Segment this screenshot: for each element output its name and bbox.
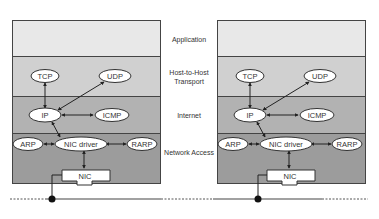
svg-text:ARP: ARP <box>20 140 35 149</box>
arrow-udp-ip <box>263 82 309 110</box>
svg-text:ICMP: ICMP <box>103 111 122 120</box>
bus-tap-dot <box>49 196 56 203</box>
node-icmp: ICMP <box>300 109 334 122</box>
svg-text:IP: IP <box>41 111 48 120</box>
node-nic-driver: NIC driver <box>55 137 107 151</box>
node-tcp: TCP <box>31 70 59 83</box>
node-ip: IP <box>234 108 266 122</box>
bus-tap-dot <box>255 196 262 203</box>
svg-text:NIC: NIC <box>79 172 93 181</box>
arrow-udp-ip <box>58 82 104 110</box>
nic-cable <box>52 175 62 199</box>
node-icmp: ICMP <box>95 109 129 122</box>
diagram-overlay: TCP UDP IP ICMP ARP NIC driver RARP NIC <box>0 0 379 219</box>
svg-text:RARP: RARP <box>337 140 358 149</box>
node-rarp: RARP <box>332 138 362 151</box>
svg-text:IP: IP <box>246 111 253 120</box>
svg-text:RARP: RARP <box>132 140 153 149</box>
node-nic: NIC <box>267 170 315 185</box>
node-udp: UDP <box>99 70 131 83</box>
node-udp: UDP <box>304 70 336 83</box>
svg-text:TCP: TCP <box>38 72 53 81</box>
arrow-ip-nicdriver <box>52 122 60 137</box>
svg-text:NIC driver: NIC driver <box>64 140 98 149</box>
left-stack-graph: TCP UDP IP ICMP ARP NIC driver RARP NIC <box>13 70 157 203</box>
svg-text:NIC driver: NIC driver <box>269 140 303 149</box>
svg-text:ARP: ARP <box>225 140 240 149</box>
node-arp: ARP <box>218 138 248 151</box>
node-nic-driver: NIC driver <box>260 137 312 151</box>
svg-text:TCP: TCP <box>243 72 258 81</box>
node-ip: IP <box>29 108 61 122</box>
svg-text:UDP: UDP <box>312 72 328 81</box>
node-arp: ARP <box>13 138 43 151</box>
svg-text:ICMP: ICMP <box>308 111 327 120</box>
node-tcp: TCP <box>236 70 264 83</box>
node-nic: NIC <box>62 170 110 185</box>
node-rarp: RARP <box>127 138 157 151</box>
svg-text:NIC: NIC <box>284 172 298 181</box>
nic-cable <box>258 175 267 199</box>
right-stack-graph: TCP UDP IP ICMP ARP NIC driver RARP NIC <box>218 70 362 203</box>
svg-text:UDP: UDP <box>107 72 123 81</box>
arrow-ip-nicdriver <box>257 122 265 137</box>
